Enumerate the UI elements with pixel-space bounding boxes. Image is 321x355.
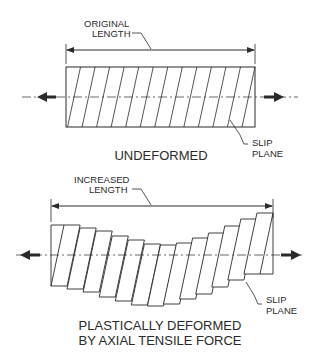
increased-length-leader xyxy=(132,189,151,205)
undeformed-specimen: ORIGINAL LENGTH SLIP PLANE UNDEFORMED xyxy=(22,18,298,163)
tensile-force-arrow-left xyxy=(20,250,40,260)
slip-plane-label-line2: PLANE xyxy=(252,148,283,159)
original-length-leader xyxy=(132,33,151,49)
tensile-force-arrow-right xyxy=(281,250,301,260)
slip-plane-leader xyxy=(246,282,262,304)
deformed-caption-line2: BY AXIAL TENSILE FORCE xyxy=(78,333,241,348)
slip-plane-label-line1: SLIP xyxy=(252,137,273,148)
increased-length-label-line2: LENGTH xyxy=(89,184,128,195)
slip-plane-leader xyxy=(230,120,248,144)
slip-plane-label-line2: PLANE xyxy=(266,305,297,316)
deformed-specimen: INCREASED LENGTH SLIP PLANE PLASTICALLY … xyxy=(16,174,305,348)
original-length-label-line2: LENGTH xyxy=(92,28,131,39)
deformed-caption-line1: PLASTICALLY DEFORMED xyxy=(79,318,242,333)
tensile-force-arrow-left xyxy=(37,92,56,102)
tensile-force-arrow-right xyxy=(264,92,284,102)
undeformed-caption: UNDEFORMED xyxy=(114,148,207,163)
slipped-blocks xyxy=(51,213,273,306)
slip-plane-label-line1: SLIP xyxy=(266,294,287,305)
slip-deformation-diagram: ORIGINAL LENGTH SLIP PLANE UNDEFORMED IN… xyxy=(0,0,321,355)
